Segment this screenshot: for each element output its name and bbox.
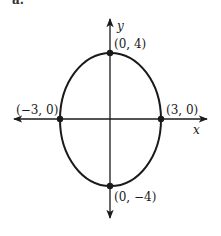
vertex-point-3	[107, 183, 113, 189]
point-label-top: (0, 4)	[114, 38, 146, 50]
y-axis-label: y	[117, 20, 124, 32]
vertex-point-0	[107, 50, 113, 56]
point-label-bottom: (0, −4)	[114, 191, 156, 203]
point-label-right: (3, 0)	[166, 104, 198, 116]
vertex-point-2	[158, 116, 164, 122]
point-label-left: (−3, 0)	[16, 104, 58, 116]
x-axis-label: x	[193, 124, 200, 136]
ellipse-diagram	[0, 0, 221, 236]
